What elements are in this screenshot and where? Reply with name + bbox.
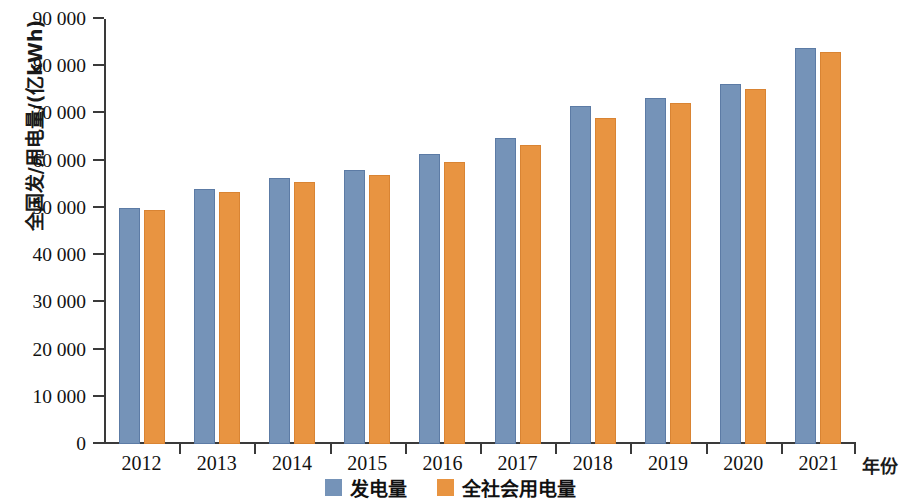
y-axis-tick: 70 000 — [93, 111, 104, 113]
y-axis-tick: 0 — [93, 442, 104, 444]
legend-label: 发电量 — [350, 474, 407, 501]
bar-group — [706, 19, 781, 444]
bar-group — [781, 19, 856, 444]
y-axis-tick: 30 000 — [93, 300, 104, 302]
x-axis-label: 2020 — [706, 452, 781, 475]
x-axis-label: 2014 — [254, 452, 329, 475]
legend-swatch-icon — [325, 479, 342, 496]
y-axis-tick-label: 50 000 — [32, 197, 86, 219]
x-axis-label: 2021 — [781, 452, 856, 475]
x-axis-label: 2015 — [330, 452, 405, 475]
y-axis-tick: 90 000 — [93, 17, 104, 19]
y-axis-tick-label: 20 000 — [32, 339, 86, 361]
bar-2021-generation — [795, 48, 816, 444]
y-axis-tick-label: 10 000 — [32, 386, 86, 408]
bar-2014-consumption — [294, 182, 315, 444]
bar-2017-generation — [495, 138, 516, 444]
legend-item-generation: 发电量 — [325, 474, 407, 501]
bar-2019-generation — [645, 98, 666, 444]
x-axis-label: 2019 — [630, 452, 705, 475]
x-axis-label: 2018 — [555, 452, 630, 475]
bar-2019-consumption — [670, 103, 691, 444]
y-axis-tick: 20 000 — [93, 348, 104, 350]
y-axis-tick-label: 60 000 — [32, 150, 86, 172]
y-axis-tick: 10 000 — [93, 395, 104, 397]
bar-group — [179, 19, 254, 444]
legend-swatch-icon — [437, 479, 454, 496]
bar-group — [254, 19, 329, 444]
y-axis-tick-label: 80 000 — [32, 55, 86, 77]
legend-item-consumption: 全社会用电量 — [437, 474, 576, 501]
bar-group — [555, 19, 630, 444]
bar-group — [330, 19, 405, 444]
x-axis-label: 2013 — [179, 452, 254, 475]
bar-2017-consumption — [520, 145, 541, 444]
x-axis-label: 2017 — [480, 452, 555, 475]
y-axis-tick-label: 40 000 — [32, 244, 86, 266]
bar-2018-consumption — [595, 118, 616, 444]
bar-2015-generation — [344, 170, 365, 444]
bar-2016-consumption — [444, 162, 465, 444]
bar-2018-generation — [570, 106, 591, 444]
bar-group — [104, 19, 179, 444]
chart-legend: 发电量全社会用电量 — [0, 474, 900, 501]
bar-2014-generation — [269, 178, 290, 444]
y-axis-tick: 60 000 — [93, 159, 104, 161]
bar-2016-generation — [419, 154, 440, 444]
bar-group — [630, 19, 705, 444]
x-axis-label: 2016 — [405, 452, 480, 475]
plot-area: 010 00020 00030 00040 00050 00060 00070 … — [104, 19, 856, 444]
bar-2021-consumption — [820, 52, 841, 444]
bar-2012-generation — [119, 208, 140, 444]
y-axis-tick: 80 000 — [93, 64, 104, 66]
bar-2013-consumption — [219, 192, 240, 444]
bar-2012-consumption — [144, 210, 165, 444]
legend-label: 全社会用电量 — [462, 474, 576, 501]
y-axis-tick-label: 0 — [76, 433, 86, 455]
y-axis-tick-label: 70 000 — [32, 102, 86, 124]
x-axis-label: 2012 — [104, 452, 179, 475]
bar-group — [405, 19, 480, 444]
bar-2020-consumption — [745, 89, 766, 444]
bar-group — [480, 19, 555, 444]
y-axis-tick-label: 30 000 — [32, 291, 86, 313]
bar-2015-consumption — [369, 175, 390, 444]
y-axis-tick: 40 000 — [93, 253, 104, 255]
y-axis-tick: 50 000 — [93, 206, 104, 208]
bar-2013-generation — [194, 189, 215, 444]
bar-2020-generation — [720, 84, 741, 444]
y-axis-tick-label: 90 000 — [32, 8, 86, 30]
